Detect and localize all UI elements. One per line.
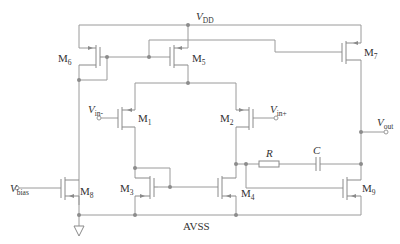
m6-source bbox=[79, 42, 88, 48]
m3-label: M3 bbox=[120, 182, 134, 197]
circuit-diagram: VDD AVSS Vin- Vin+ Vbias Vout M6 M5 M7 M… bbox=[0, 0, 400, 244]
m4-label: M4 bbox=[241, 187, 255, 202]
m2-label: M2 bbox=[220, 112, 234, 127]
m5-label: M5 bbox=[192, 52, 206, 67]
m6-label: M6 bbox=[58, 52, 72, 67]
m6-gate-drain bbox=[79, 57, 107, 80]
transistor-m4 bbox=[218, 176, 236, 199]
transistor-m3 bbox=[135, 176, 158, 199]
vin-minus-label: Vin- bbox=[88, 103, 104, 118]
avss-label: AVSS bbox=[183, 220, 210, 232]
m7-label: M7 bbox=[364, 46, 378, 61]
vdd-to-m5 bbox=[184, 25, 188, 48]
resistor-r bbox=[259, 161, 279, 167]
resistor-label: R bbox=[265, 147, 273, 159]
transistor-m2 bbox=[236, 107, 253, 130]
m9-label: M9 bbox=[362, 182, 376, 197]
capacitor-c bbox=[316, 157, 320, 171]
avss-rail bbox=[79, 196, 361, 215]
transistor-m1 bbox=[118, 107, 135, 130]
m9-gate bbox=[246, 164, 343, 188]
transistor-m7 bbox=[342, 41, 361, 64]
vin-plus-label: Vin+ bbox=[270, 103, 287, 118]
transistor-m8 bbox=[61, 177, 79, 200]
m8-label: M8 bbox=[80, 185, 94, 200]
tail-node bbox=[135, 83, 236, 110]
m1-label: M1 bbox=[138, 112, 152, 127]
vout-label: Vout bbox=[377, 116, 394, 131]
vbias-label: Vbias bbox=[10, 182, 29, 197]
ground-icon bbox=[74, 226, 84, 236]
vdd-label: VDD bbox=[196, 10, 214, 25]
capacitor-label: C bbox=[313, 144, 321, 156]
transistor-m9 bbox=[343, 177, 361, 200]
